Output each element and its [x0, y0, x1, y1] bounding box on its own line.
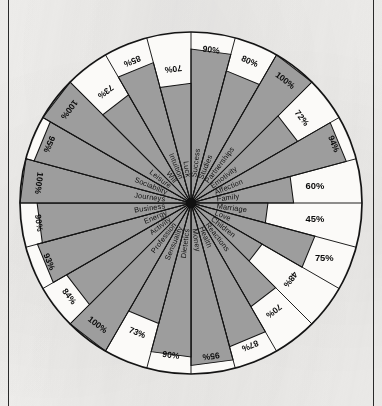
percent-label-love: 75%	[315, 252, 334, 263]
percent-label-family: 60%	[306, 180, 325, 191]
center-hub-dot	[186, 198, 196, 208]
radar-chart: SuccessStudiesPartnershipsEmotivityAffec…	[0, 0, 382, 406]
radar-chart-svg: SuccessStudiesPartnershipsEmotivityAffec…	[0, 0, 382, 406]
percent-label-marriage: 45%	[306, 213, 325, 224]
page-background: SuccessStudiesPartnershipsEmotivityAffec…	[0, 0, 382, 406]
